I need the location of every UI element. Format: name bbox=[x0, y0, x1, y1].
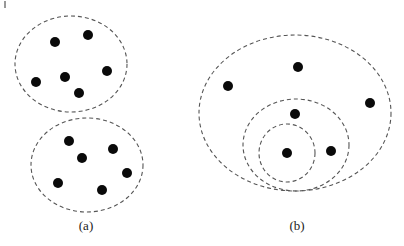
data-point bbox=[60, 72, 70, 82]
data-point bbox=[50, 37, 60, 47]
data-point bbox=[290, 109, 300, 119]
data-point bbox=[31, 77, 41, 87]
data-point bbox=[293, 62, 303, 72]
data-point bbox=[97, 185, 107, 195]
top-cluster-outline bbox=[15, 16, 127, 112]
panel-b-label: (b) bbox=[289, 218, 304, 233]
data-point bbox=[53, 178, 63, 188]
data-point bbox=[108, 144, 118, 154]
data-point bbox=[83, 30, 93, 40]
data-point bbox=[74, 88, 84, 98]
data-point bbox=[102, 66, 112, 76]
data-point bbox=[223, 81, 233, 91]
top-cluster bbox=[15, 16, 127, 112]
panel-a-separate-clusters bbox=[15, 16, 143, 212]
data-point bbox=[282, 148, 292, 158]
data-point bbox=[77, 153, 87, 163]
data-point bbox=[365, 98, 375, 108]
panel-b-nested-clusters bbox=[199, 35, 391, 191]
bottom-cluster-outline bbox=[31, 118, 143, 212]
clustering-diagram: (a) (b) bbox=[0, 0, 404, 246]
bottom-cluster bbox=[31, 118, 143, 212]
data-point bbox=[64, 136, 74, 146]
data-point bbox=[326, 146, 336, 156]
data-point bbox=[122, 168, 132, 178]
panel-a-label: (a) bbox=[79, 218, 93, 233]
